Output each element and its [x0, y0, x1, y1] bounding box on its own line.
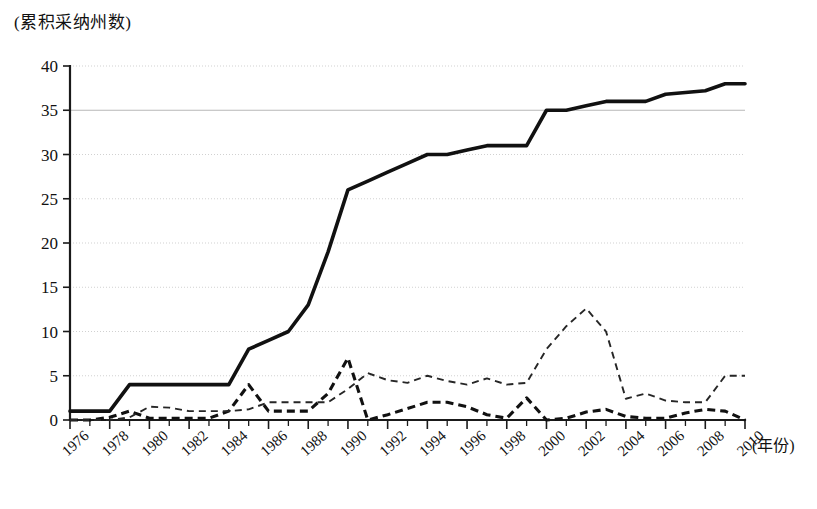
x-axis-ticks: 1976197819801982198419861988199019921994… — [59, 420, 767, 459]
y-axis-ticks: 0510152025303540 — [41, 57, 70, 430]
gridlines — [70, 66, 745, 376]
y-tick-label-10: 10 — [41, 323, 58, 342]
x-tick-label-1996: 1996 — [456, 427, 489, 459]
x-tick-label-2000: 2000 — [535, 427, 568, 459]
chart-figure: (累积采纳州数) (年份) 0510152025303540 197619781… — [0, 0, 817, 509]
y-tick-label-15: 15 — [41, 278, 58, 297]
x-tick-label-2002: 2002 — [575, 427, 608, 459]
y-tick-label-40: 40 — [41, 57, 58, 76]
x-tick-label-1990: 1990 — [337, 427, 370, 459]
x-tick-label-1984: 1984 — [218, 427, 251, 459]
data-series — [70, 84, 745, 420]
y-tick-label-35: 35 — [41, 101, 58, 120]
x-tick-label-1982: 1982 — [178, 427, 211, 459]
y-tick-label-0: 0 — [50, 411, 59, 430]
x-tick-label-1994: 1994 — [416, 427, 449, 459]
y-tick-label-30: 30 — [41, 146, 58, 165]
x-tick-label-1986: 1986 — [257, 427, 290, 459]
x-tick-label-2006: 2006 — [654, 427, 687, 459]
series-new-adoptions-bold — [70, 358, 745, 420]
x-tick-label-2008: 2008 — [694, 427, 727, 459]
x-tick-label-2010: 2010 — [734, 427, 767, 459]
x-tick-label-1992: 1992 — [376, 427, 409, 459]
x-tick-label-1978: 1978 — [98, 427, 131, 459]
x-tick-label-1998: 1998 — [496, 427, 529, 459]
y-tick-label-20: 20 — [41, 234, 58, 253]
x-tick-label-1988: 1988 — [297, 427, 330, 459]
y-tick-label-5: 5 — [50, 367, 59, 386]
series-cumulative-adopting-states — [70, 84, 745, 411]
x-tick-label-1980: 1980 — [138, 427, 171, 459]
chart-plot-area: 0510152025303540 19761978198019821984198… — [0, 0, 817, 509]
x-tick-label-1976: 1976 — [59, 427, 92, 459]
x-tick-label-2004: 2004 — [615, 427, 648, 459]
series-annual-count-thin — [70, 308, 745, 420]
y-tick-label-25: 25 — [41, 190, 58, 209]
